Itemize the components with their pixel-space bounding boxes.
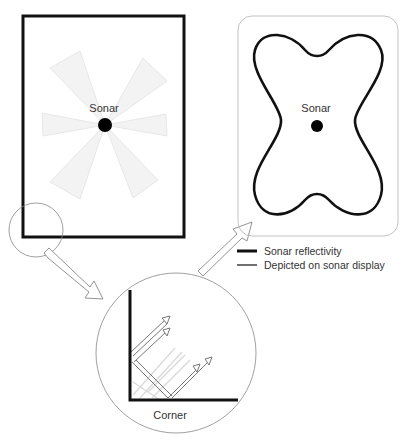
corner-label: Corner bbox=[153, 409, 187, 421]
sonar-label-left: Sonar bbox=[89, 102, 119, 114]
corner-detail: Corner bbox=[96, 273, 256, 433]
left-room: Sonar bbox=[9, 16, 184, 257]
sonar-dot-display bbox=[311, 120, 323, 132]
sonar-diagram: Sonar Corner bbox=[0, 0, 407, 447]
legend-item-reflectivity: Sonar reflectivity bbox=[264, 245, 342, 257]
arrow-to-detail bbox=[44, 248, 103, 299]
arrow-to-display bbox=[198, 222, 252, 276]
corner-walls bbox=[130, 290, 238, 400]
sonar-display: Sonar bbox=[238, 16, 398, 236]
sonar-dot bbox=[98, 118, 112, 132]
sonar-label-right: Sonar bbox=[301, 102, 331, 114]
corner-highlight-circle bbox=[9, 203, 63, 257]
legend: Sonar reflectivity Depicted on sonar dis… bbox=[237, 245, 386, 271]
legend-item-display: Depicted on sonar display bbox=[264, 259, 386, 271]
